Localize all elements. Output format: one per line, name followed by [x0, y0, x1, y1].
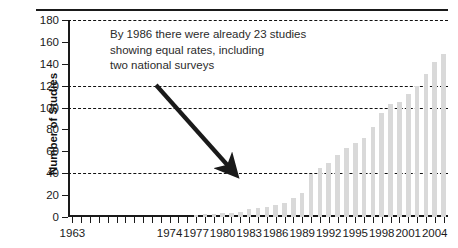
top-divider-rule	[36, 9, 448, 11]
bar	[379, 113, 384, 217]
x-tick	[417, 217, 418, 223]
x-tick-label: 1992	[316, 227, 342, 239]
x-tick	[346, 217, 347, 223]
y-tick	[62, 173, 68, 174]
x-tick-label: 1980	[210, 227, 236, 239]
x-tick	[170, 217, 171, 223]
bar	[406, 94, 411, 217]
x-tick	[391, 217, 392, 223]
x-tick	[143, 217, 144, 223]
x-tick	[187, 217, 188, 223]
x-tick-label: 1998	[369, 227, 395, 239]
y-tick	[62, 217, 68, 218]
bar	[273, 205, 278, 217]
x-tick	[311, 217, 312, 223]
x-tick	[276, 217, 277, 223]
x-tick-label: 1986	[263, 227, 289, 239]
x-tick-label: 1983	[236, 227, 262, 239]
x-tick-label: 1989	[289, 227, 315, 239]
x-tick	[240, 217, 241, 223]
bar	[335, 155, 340, 217]
bar	[362, 138, 367, 217]
y-tick	[62, 129, 68, 130]
y-tick-label: 20	[46, 189, 59, 201]
x-tick	[302, 217, 303, 223]
y-tick-label: 120	[40, 80, 59, 92]
bar	[441, 54, 446, 217]
bar	[424, 74, 429, 217]
annotation-line-2: showing equal rates, including	[110, 43, 306, 59]
annotation-line-1: By 1986 there were already 23 studies	[110, 27, 306, 43]
x-tick-label: 1995	[342, 227, 368, 239]
x-tick	[134, 217, 135, 223]
gridline	[68, 20, 448, 21]
bar	[344, 148, 349, 217]
x-tick	[355, 217, 356, 223]
x-tick	[214, 217, 215, 223]
bar	[309, 174, 314, 217]
chart-figure: Number of Studies 0204060801001201401601…	[0, 0, 458, 248]
x-tick	[329, 217, 330, 223]
x-tick	[231, 217, 232, 223]
x-tick-label: 2001	[395, 227, 421, 239]
y-tick-label: 140	[40, 58, 59, 70]
y-axis-line	[68, 20, 70, 217]
bar	[415, 86, 420, 217]
y-tick	[62, 64, 68, 65]
x-tick	[320, 217, 321, 223]
x-tick-label: 1977	[183, 227, 209, 239]
bar	[282, 203, 287, 217]
bar	[291, 198, 296, 217]
x-tick	[72, 217, 73, 223]
y-tick-label: 0	[53, 211, 59, 223]
y-tick-label: 100	[40, 102, 59, 114]
x-tick	[444, 217, 445, 223]
x-tick	[99, 217, 100, 223]
bar	[247, 209, 252, 217]
bar	[353, 143, 358, 217]
x-tick	[205, 217, 206, 223]
x-tick	[196, 217, 197, 223]
x-tick	[81, 217, 82, 223]
bar	[371, 127, 376, 217]
x-tick	[426, 217, 427, 223]
x-tick	[117, 217, 118, 223]
x-tick	[338, 217, 339, 223]
x-tick-label: 1974	[157, 227, 183, 239]
x-tick	[399, 217, 400, 223]
x-tick	[258, 217, 259, 223]
x-tick	[293, 217, 294, 223]
y-tick-label: 160	[40, 36, 59, 48]
y-tick	[62, 108, 68, 109]
x-tick	[125, 217, 126, 223]
y-tick-label: 180	[40, 14, 59, 26]
y-tick	[62, 86, 68, 87]
bar	[256, 208, 261, 217]
x-tick	[382, 217, 383, 223]
x-tick	[223, 217, 224, 223]
x-tick	[90, 217, 91, 223]
y-tick-label: 80	[46, 123, 59, 135]
x-tick	[408, 217, 409, 223]
y-tick	[62, 195, 68, 196]
bar	[388, 104, 393, 217]
bar	[300, 193, 305, 217]
bar	[318, 168, 323, 217]
x-tick	[152, 217, 153, 223]
x-tick	[161, 217, 162, 223]
bar	[326, 163, 331, 217]
x-tick	[285, 217, 286, 223]
annotation-line-3: two national surveys	[110, 58, 306, 74]
y-tick	[62, 42, 68, 43]
gridline	[68, 86, 448, 87]
y-tick-label: 60	[46, 145, 59, 157]
bar	[397, 102, 402, 217]
annotation-callout: By 1986 there were already 23 studies sh…	[110, 27, 306, 74]
bar	[432, 62, 437, 217]
x-tick	[373, 217, 374, 223]
bar	[265, 207, 270, 217]
x-tick-label: 2004	[422, 227, 448, 239]
x-tick	[178, 217, 179, 223]
y-tick	[62, 20, 68, 21]
x-tick	[364, 217, 365, 223]
